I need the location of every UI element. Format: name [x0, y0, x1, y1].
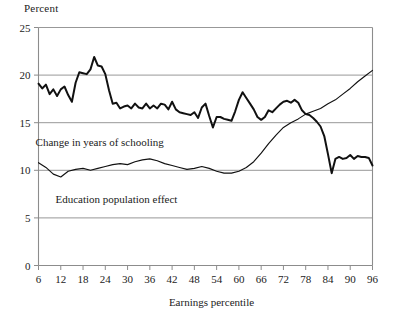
- chart-container: Percent 6121824303642485460667278849096 …: [0, 0, 393, 320]
- y-tick-labels-group: 0510152025: [20, 22, 32, 272]
- series-annotation-2: Education population effect: [55, 193, 177, 205]
- series-line-2: [39, 70, 373, 177]
- y-tick-label-15: 15: [20, 117, 32, 129]
- x-tick-label-90: 90: [345, 273, 357, 285]
- x-tick-label-18: 18: [78, 273, 90, 285]
- x-tick-label-30: 30: [122, 273, 134, 285]
- x-tick-label-84: 84: [322, 273, 334, 285]
- x-tick-label-36: 36: [144, 273, 156, 285]
- x-tick-label-6: 6: [36, 273, 42, 285]
- x-tick-marks-group: [39, 266, 373, 271]
- y-tick-label-20: 20: [20, 69, 32, 81]
- x-tick-label-78: 78: [300, 273, 312, 285]
- x-axis-title-text: Earnings percentile: [139, 296, 254, 308]
- x-tick-label-60: 60: [233, 273, 245, 285]
- x-tick-label-66: 66: [256, 273, 268, 285]
- x-tick-label-42: 42: [167, 273, 178, 285]
- gridlines-group: [39, 28, 373, 218]
- y-tick-label-25: 25: [20, 22, 32, 34]
- series-line-1: [39, 57, 373, 173]
- x-tick-label-96: 96: [367, 273, 379, 285]
- x-tick-labels-group: 6121824303642485460667278849096: [36, 273, 379, 285]
- line-chart-plot: 6121824303642485460667278849096 05101520…: [0, 0, 393, 320]
- x-tick-label-72: 72: [278, 273, 289, 285]
- x-tick-label-24: 24: [100, 273, 112, 285]
- y-tick-label-0: 0: [25, 260, 31, 272]
- series-annotation-1: Change in years of schooling: [36, 136, 165, 148]
- y-tick-label-10: 10: [20, 164, 32, 176]
- x-tick-label-12: 12: [55, 273, 66, 285]
- x-tick-label-54: 54: [211, 273, 223, 285]
- x-axis-title: Earnings percentile: [0, 296, 393, 308]
- x-tick-label-48: 48: [189, 273, 201, 285]
- y-tick-label-5: 5: [25, 212, 31, 224]
